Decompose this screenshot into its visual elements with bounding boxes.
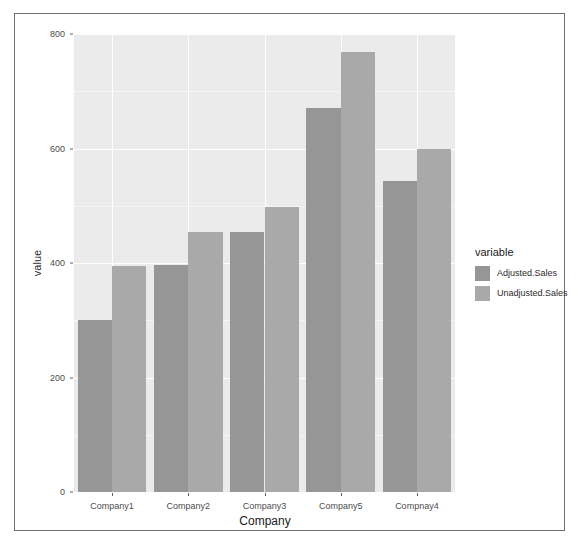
plot-panel: [74, 34, 455, 492]
chart-page: 0200400600800 value Company1Company2Comp…: [0, 0, 580, 548]
legend-item[interactable]: Adjusted.Sales: [475, 264, 568, 282]
legend-swatch-icon: [475, 286, 490, 301]
y-tick-mark: [70, 377, 73, 378]
x-tick-mark: [188, 493, 189, 496]
bar: [341, 52, 375, 492]
bar: [417, 149, 451, 492]
y-tick-mark: [70, 263, 73, 264]
legend-item-label: Adjusted.Sales: [497, 268, 557, 278]
bar: [154, 265, 188, 492]
y-tick-label: 800: [50, 29, 65, 39]
bar: [188, 232, 222, 492]
y-axis-title: value: [31, 250, 43, 276]
legend-swatch-icon: [475, 266, 490, 281]
bar: [112, 266, 146, 492]
x-tick-label: Company2: [167, 501, 211, 511]
y-tick-mark: [70, 34, 73, 35]
x-tick-label: Company1: [90, 501, 134, 511]
x-tick-mark: [341, 493, 342, 496]
legend-item[interactable]: Unadjusted.Sales: [475, 284, 568, 302]
y-tick-label: 400: [50, 258, 65, 268]
figure-frame: 0200400600800 value Company1Company2Comp…: [14, 13, 565, 531]
x-axis-title: Company: [239, 514, 290, 528]
y-tick-label: 600: [50, 144, 65, 154]
y-tick-label: 0: [60, 487, 65, 497]
y-tick-mark: [70, 148, 73, 149]
x-tick-mark: [112, 493, 113, 496]
y-tick-label: 200: [50, 373, 65, 383]
bar: [230, 232, 264, 492]
bar: [265, 207, 299, 492]
bar: [383, 181, 417, 492]
legend-items: Adjusted.SalesUnadjusted.Sales: [475, 264, 568, 302]
x-tick-label: Company5: [319, 501, 363, 511]
y-tick-mark: [70, 492, 73, 493]
x-tick-mark: [265, 493, 266, 496]
bar: [306, 108, 340, 492]
x-tick-label: Compnay4: [395, 501, 439, 511]
legend-item-label: Unadjusted.Sales: [497, 288, 568, 298]
legend: variable Adjusted.SalesUnadjusted.Sales: [475, 246, 568, 304]
legend-title: variable: [475, 246, 568, 258]
x-tick-label: Company3: [243, 501, 287, 511]
bar: [78, 320, 112, 492]
x-tick-mark: [417, 493, 418, 496]
